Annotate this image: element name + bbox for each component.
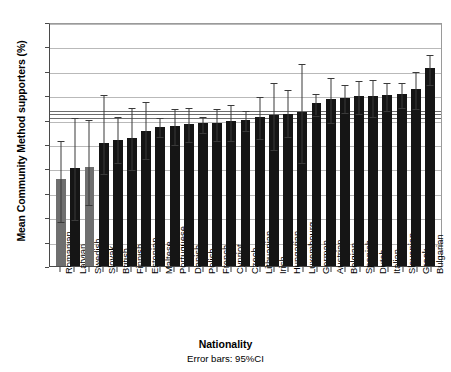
- error-bar-cap-lower: [370, 117, 377, 118]
- bar[interactable]: [397, 94, 407, 266]
- error-bar-cap-upper: [114, 117, 121, 118]
- bar[interactable]: [340, 98, 350, 266]
- bar-slot[interactable]: [224, 24, 238, 266]
- y-axis-tick-mark: [45, 23, 49, 24]
- error-bar-cap-upper: [242, 111, 249, 112]
- bar-slot[interactable]: [324, 24, 338, 266]
- bar-slot[interactable]: [196, 24, 210, 266]
- plot-area: [49, 23, 442, 267]
- error-bar: [174, 109, 175, 144]
- x-axis-tick-label: French: [210, 274, 224, 336]
- bar-slot[interactable]: [153, 24, 167, 266]
- x-axis-tick-label: Belgian: [338, 274, 352, 336]
- error-bar-cap-lower: [143, 159, 150, 160]
- error-bar: [103, 95, 104, 174]
- bar[interactable]: [212, 123, 222, 266]
- bar-slot[interactable]: [309, 24, 323, 266]
- x-axis-tick-label: Portuguese: [167, 274, 181, 336]
- error-bar-cap-upper: [143, 102, 150, 103]
- bar-slot[interactable]: [267, 24, 281, 266]
- error-bar-cap-upper: [370, 80, 377, 81]
- error-bar-footnote: Error bars: 95%CI: [0, 353, 451, 364]
- x-axis-tick-label: Swedish: [82, 274, 96, 336]
- bar[interactable]: [312, 103, 322, 266]
- bar-slot[interactable]: [423, 24, 437, 266]
- bar-slot[interactable]: [111, 24, 125, 266]
- bar[interactable]: [368, 96, 378, 266]
- error-bar-cap-lower: [356, 114, 363, 115]
- x-axis-tick-label: Bulgarian: [424, 274, 438, 336]
- error-bar: [415, 72, 416, 110]
- error-bar: [344, 85, 345, 113]
- bar[interactable]: [198, 123, 208, 266]
- x-axis-tick-label: Slovak: [96, 274, 110, 336]
- bar-slot[interactable]: [352, 24, 366, 266]
- bar[interactable]: [411, 89, 421, 266]
- error-bar-cap-upper: [171, 109, 178, 110]
- y-axis-tick-mark: [45, 145, 49, 146]
- bar[interactable]: [155, 127, 165, 266]
- error-bar: [61, 141, 62, 222]
- x-axis-tick-label: Hungarian: [281, 274, 295, 336]
- bar[interactable]: [425, 68, 435, 266]
- error-bar: [75, 118, 76, 220]
- bar-slot[interactable]: [380, 24, 394, 266]
- bar[interactable]: [184, 124, 194, 266]
- y-axis-tick-mark: [45, 169, 49, 170]
- bar-slot[interactable]: [238, 24, 252, 266]
- error-bar-cap-upper: [270, 83, 277, 84]
- bar-slot[interactable]: [97, 24, 111, 266]
- bar-slot[interactable]: [125, 24, 139, 266]
- bar-slot[interactable]: [139, 24, 153, 266]
- bar-slot[interactable]: [409, 24, 423, 266]
- error-bar-cap-lower: [171, 145, 178, 146]
- bar-slot[interactable]: [281, 24, 295, 266]
- bar-slot[interactable]: [210, 24, 224, 266]
- bar-chart: Mean Community Method supporters (%) 010…: [0, 0, 451, 372]
- x-axis-tick-label: Austrian: [324, 274, 338, 336]
- bar-slot[interactable]: [253, 24, 267, 266]
- error-bar-cap-lower: [327, 123, 334, 124]
- x-axis-tick-label: Irish: [267, 274, 281, 336]
- error-bar: [330, 78, 331, 123]
- error-bar: [245, 111, 246, 132]
- error-bar-cap-lower: [341, 113, 348, 114]
- error-bar-cap-lower: [426, 85, 433, 86]
- bar[interactable]: [241, 120, 251, 266]
- x-axis-tick-label: Cypriot: [224, 274, 238, 336]
- bar-slot[interactable]: [68, 24, 82, 266]
- error-bar-cap-lower: [185, 142, 192, 143]
- bar-slot[interactable]: [54, 24, 68, 266]
- bar-slot[interactable]: [182, 24, 196, 266]
- error-bar-cap-upper: [72, 118, 79, 119]
- error-bar-cap-upper: [356, 81, 363, 82]
- error-bar-cap-lower: [129, 170, 136, 171]
- error-bar: [231, 105, 232, 142]
- x-axis-tick-labels: RomanianLatvianSwedishSlovakBritishFinni…: [49, 274, 442, 336]
- x-axis-tick-label: Lithuanian: [253, 274, 267, 336]
- x-axis-tick-label: Spanish: [353, 274, 367, 336]
- error-bar: [160, 118, 161, 138]
- bar[interactable]: [382, 95, 392, 266]
- error-bar-cap-lower: [58, 222, 65, 223]
- error-bar-cap-upper: [327, 78, 334, 79]
- bar[interactable]: [170, 126, 180, 266]
- y-axis-title: Mean Community Method supporters (%): [15, 16, 27, 266]
- x-axis-tick-label: Finnish: [124, 274, 138, 336]
- bar-slot[interactable]: [395, 24, 409, 266]
- error-bar-cap-lower: [285, 137, 292, 138]
- error-bar-cap-lower: [398, 108, 405, 109]
- bar[interactable]: [354, 96, 364, 266]
- error-bar-cap-upper: [214, 109, 221, 110]
- error-bar-cap-upper: [384, 83, 391, 84]
- x-axis-tick-label: Estonian: [139, 274, 153, 336]
- error-bar-cap-lower: [228, 141, 235, 142]
- bar-slot[interactable]: [338, 24, 352, 266]
- bar-slot[interactable]: [366, 24, 380, 266]
- bar-slot[interactable]: [82, 24, 96, 266]
- bar[interactable]: [226, 121, 236, 266]
- error-bar-cap-upper: [100, 95, 107, 96]
- error-bar-cap-lower: [242, 131, 249, 132]
- bar[interactable]: [326, 99, 336, 266]
- error-bar-cap-lower: [100, 174, 107, 175]
